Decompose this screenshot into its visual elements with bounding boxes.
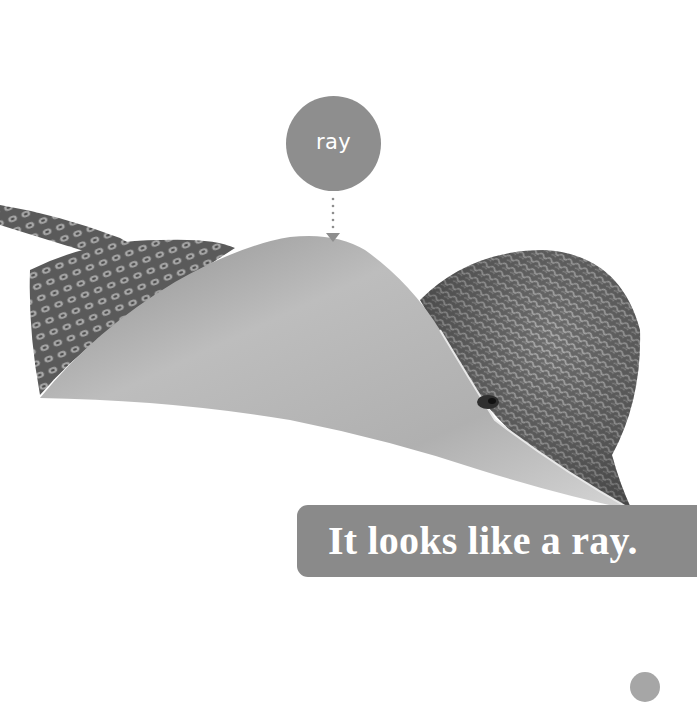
pointer-arrow-icon	[326, 196, 340, 244]
label-text: ray	[316, 130, 351, 154]
caption-text: It looks like a ray.	[328, 517, 638, 564]
caption-banner: It looks like a ray.	[297, 505, 697, 577]
page-number-tab	[630, 672, 660, 702]
label-bubble: ray	[286, 96, 381, 191]
